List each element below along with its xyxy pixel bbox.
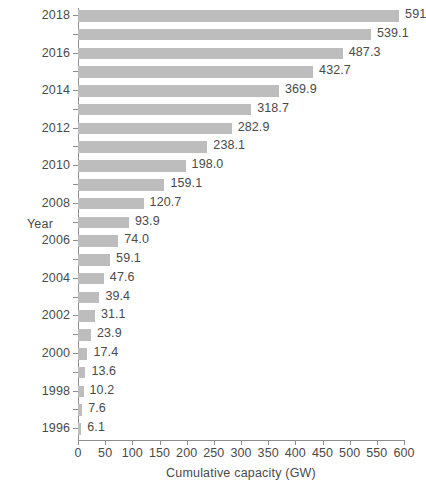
bar-2016 bbox=[78, 48, 343, 60]
y-tick-label-1998: 1998 bbox=[30, 384, 70, 398]
x-tick-label-100: 100 bbox=[122, 446, 143, 460]
bar-1999 bbox=[78, 367, 85, 379]
bar-2018 bbox=[78, 10, 399, 22]
bar-2006 bbox=[78, 235, 118, 247]
y-tick-label-2002: 2002 bbox=[30, 308, 70, 322]
x-tick-label-350: 350 bbox=[258, 446, 279, 460]
y-tick-label-1996: 1996 bbox=[30, 421, 70, 435]
bar-value-label: 93.9 bbox=[135, 214, 160, 228]
bar-row: 432.7 bbox=[78, 64, 404, 83]
bar-row: 282.9 bbox=[78, 121, 404, 140]
x-tick-550 bbox=[377, 440, 378, 445]
x-tick-label-300: 300 bbox=[230, 446, 251, 460]
bar-value-label: 13.6 bbox=[91, 364, 116, 378]
x-tick-label-0: 0 bbox=[74, 446, 81, 460]
bar-row: 591 bbox=[78, 8, 404, 27]
bar-2008 bbox=[78, 198, 144, 210]
bar-row: 6.1 bbox=[78, 421, 404, 440]
bar-row: 369.9 bbox=[78, 83, 404, 102]
bar-row: 120.7 bbox=[78, 196, 404, 215]
y-tick-label-2018: 2018 bbox=[30, 8, 70, 22]
x-tick-50 bbox=[105, 440, 106, 445]
bar-row: 23.9 bbox=[78, 327, 404, 346]
bar-value-label: 120.7 bbox=[150, 195, 182, 209]
bar-2005 bbox=[78, 254, 110, 266]
x-tick-label-600: 600 bbox=[393, 446, 414, 460]
bar-value-label: 17.4 bbox=[93, 345, 118, 359]
x-tick-200 bbox=[187, 440, 188, 445]
plot-area: 591539.1487.3432.7369.9318.7282.9238.119… bbox=[78, 8, 404, 440]
bar-2010 bbox=[78, 160, 186, 172]
bar-1998 bbox=[78, 386, 84, 398]
bar-value-label: 59.1 bbox=[116, 251, 141, 265]
bar-row: 159.1 bbox=[78, 177, 404, 196]
bar-value-label: 318.7 bbox=[257, 101, 289, 115]
bar-row: 59.1 bbox=[78, 252, 404, 271]
bar-2002 bbox=[78, 310, 95, 322]
bar-row: 47.6 bbox=[78, 271, 404, 290]
x-tick-label-150: 150 bbox=[149, 446, 170, 460]
x-tick-250 bbox=[214, 440, 215, 445]
y-tick-label-2000: 2000 bbox=[30, 346, 70, 360]
bar-value-label: 432.7 bbox=[319, 63, 351, 77]
bar-row: 13.6 bbox=[78, 365, 404, 384]
bar-value-label: 10.2 bbox=[90, 383, 115, 397]
bar-value-label: 539.1 bbox=[377, 26, 409, 40]
bar-value-label: 39.4 bbox=[105, 289, 130, 303]
y-tick-label-2008: 2008 bbox=[30, 196, 70, 210]
y-tick-label-2014: 2014 bbox=[30, 83, 70, 97]
x-tick-0 bbox=[78, 440, 79, 445]
bar-value-label: 6.1 bbox=[87, 420, 105, 434]
bar-row: 318.7 bbox=[78, 102, 404, 121]
x-tick-500 bbox=[350, 440, 351, 445]
bar-value-label: 487.3 bbox=[349, 45, 381, 59]
bar-2001 bbox=[78, 329, 91, 341]
x-tick-label-200: 200 bbox=[176, 446, 197, 460]
x-axis-title: Cumulative capacity (GW) bbox=[78, 466, 404, 480]
bar-value-label: 31.1 bbox=[101, 307, 126, 321]
bar-2013 bbox=[78, 104, 251, 116]
bar-value-label: 159.1 bbox=[170, 176, 202, 190]
y-tick-label-2016: 2016 bbox=[30, 46, 70, 60]
x-tick-label-500: 500 bbox=[339, 446, 360, 460]
bar-row: 7.6 bbox=[78, 402, 404, 421]
bar-row: 487.3 bbox=[78, 46, 404, 65]
bar-2012 bbox=[78, 123, 232, 135]
bar-value-label: 238.1 bbox=[213, 138, 245, 152]
bar-value-label: 369.9 bbox=[285, 82, 317, 96]
y-tick-label-2010: 2010 bbox=[30, 158, 70, 172]
bar-row: 238.1 bbox=[78, 139, 404, 158]
bar-2004 bbox=[78, 273, 104, 285]
bar-value-label: 23.9 bbox=[97, 326, 122, 340]
x-tick-300 bbox=[241, 440, 242, 445]
bar-2000 bbox=[78, 348, 87, 360]
bar-row: 93.9 bbox=[78, 215, 404, 234]
x-tick-600 bbox=[404, 440, 405, 445]
bar-2011 bbox=[78, 141, 207, 153]
bar-row: 17.4 bbox=[78, 346, 404, 365]
bar-value-label: 47.6 bbox=[110, 270, 135, 284]
bar-2017 bbox=[78, 29, 371, 41]
bar-row: 198.0 bbox=[78, 158, 404, 177]
x-tick-100 bbox=[132, 440, 133, 445]
y-tick-labels: 2018201620142012201020082006200420022000… bbox=[26, 0, 70, 491]
bar-2015 bbox=[78, 66, 313, 78]
bar-value-label: 591 bbox=[405, 7, 426, 21]
bar-2007 bbox=[78, 217, 129, 229]
bar-row: 74.0 bbox=[78, 233, 404, 252]
bar-2009 bbox=[78, 179, 164, 191]
bar-row: 539.1 bbox=[78, 27, 404, 46]
x-tick-350 bbox=[268, 440, 269, 445]
bar-row: 39.4 bbox=[78, 290, 404, 309]
bar-1996 bbox=[78, 423, 81, 435]
x-tick-150 bbox=[160, 440, 161, 445]
bar-row: 31.1 bbox=[78, 308, 404, 327]
bar-value-label: 74.0 bbox=[124, 232, 149, 246]
x-tick-label-550: 550 bbox=[366, 446, 387, 460]
bar-2014 bbox=[78, 85, 279, 97]
y-tick-label-2004: 2004 bbox=[30, 271, 70, 285]
y-tick-label-2012: 2012 bbox=[30, 121, 70, 135]
x-tick-400 bbox=[295, 440, 296, 445]
bar-row: 10.2 bbox=[78, 384, 404, 403]
